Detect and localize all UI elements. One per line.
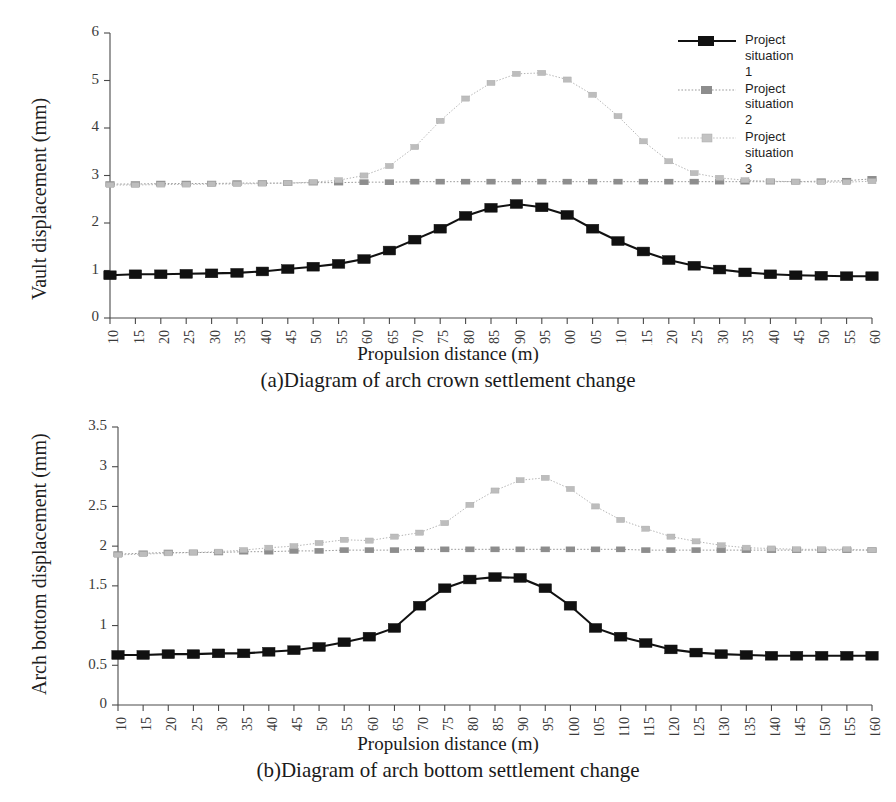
legend-item-1[interactable]: Project situation 1: [676, 32, 831, 80]
x-tick-label: 55: [335, 330, 350, 344]
x-tick-label: 125: [690, 330, 705, 345]
x-tick-label: 65: [391, 717, 406, 731]
x-tick-label: 135: [741, 330, 756, 345]
x-tick-label: 145: [793, 717, 808, 735]
legend-key-dotted-marker-light-icon: [676, 129, 738, 146]
x-tick-label: 135: [743, 717, 758, 735]
x-tick-label: 40: [259, 330, 274, 344]
x-tick-label: 30: [208, 330, 223, 344]
chart-svg-b: 00.511.522.533.5101520253035404550556065…: [0, 405, 896, 735]
x-tick-label: 150: [818, 717, 833, 735]
x-tick-label: 115: [642, 717, 657, 735]
figure-arch-crown: 0123456101520253035404550556065707580859…: [0, 0, 896, 405]
y-tick-label: 2: [100, 537, 108, 553]
y-tick-label: 4: [92, 118, 100, 134]
x-tick-label: 160: [868, 330, 883, 345]
x-tick-label: 115: [640, 330, 655, 345]
y-tick-label: 0.5: [88, 656, 107, 672]
y-tick-label: 1: [100, 616, 108, 632]
x-tick-label: 35: [233, 330, 248, 344]
x-tick-label: 140: [767, 330, 782, 345]
x-tick-label: 105: [592, 717, 607, 735]
x-tick-label: 25: [182, 330, 197, 344]
legend-label-3: Project situation 3: [745, 129, 831, 177]
series-2: [113, 547, 876, 557]
legend-a: Project situation 1 Project situation 2: [676, 32, 831, 178]
x-tick-label: 150: [817, 330, 832, 345]
x-tick-label: 100: [567, 717, 582, 735]
x-tick-label: 75: [436, 330, 451, 344]
x-tick-label: 110: [614, 330, 629, 345]
x-tick-label: 60: [360, 330, 375, 344]
series-3: [114, 475, 876, 557]
x-tick-label: 130: [717, 717, 732, 735]
x-tick-label: 55: [340, 717, 355, 731]
x-tick-label: 35: [240, 717, 255, 731]
x-tick-label: 110: [617, 717, 632, 735]
series-1: [112, 573, 878, 660]
legend-key-dotted-marker-icon: [676, 81, 738, 98]
legend-key-solid-square-icon: [676, 32, 738, 49]
y-tick-label: 3: [100, 457, 108, 473]
x-tick-label: 80: [466, 717, 481, 731]
y-tick-label: 0: [100, 695, 108, 711]
x-tick-label: 50: [309, 330, 324, 344]
y-tick-label: 3.5: [88, 417, 107, 433]
x-tick-label: 60: [366, 717, 381, 731]
plot-area-b: 00.511.522.533.5101520253035404550556065…: [0, 405, 896, 735]
series-1: [104, 200, 878, 281]
y-tick-label: 1.5: [88, 576, 107, 592]
legend-label-1: Project situation 1: [745, 32, 831, 80]
y-tick-label: 3: [92, 166, 100, 182]
x-tick-label: 120: [665, 330, 680, 345]
y-tick-label: 2: [92, 213, 100, 229]
x-tick-label: 70: [411, 330, 426, 344]
x-tick-label: 140: [768, 717, 783, 735]
x-tick-label: 45: [284, 330, 299, 344]
x-tick-label: 85: [487, 330, 502, 344]
figure-caption-a: (a)Diagram of arch crown settlement chan…: [0, 368, 896, 393]
figure-caption-b: (b)Diagram of arch bottom settlement cha…: [0, 758, 896, 783]
x-tick-label: 90: [513, 330, 528, 344]
legend-item-2[interactable]: Project situation 2: [676, 81, 831, 129]
plot-area-a: 0123456101520253035404550556065707580859…: [0, 0, 896, 345]
x-tick-label: 10: [114, 717, 129, 731]
x-tick-label: 120: [667, 717, 682, 735]
x-tick-label: 75: [441, 717, 456, 731]
x-axis-title-a: Propulsion distance (m): [0, 343, 896, 365]
x-tick-label: 65: [386, 330, 401, 344]
x-tick-label: 15: [139, 717, 154, 731]
x-tick-label: 160: [868, 717, 883, 735]
x-tick-label: 20: [164, 717, 179, 731]
x-tick-label: 155: [843, 330, 858, 345]
y-tick-label: 0: [92, 308, 100, 324]
y-axis-title-b: Arch bottom displacement (mm): [28, 433, 51, 695]
x-tick-label: 125: [692, 717, 707, 735]
x-tick-label: 80: [462, 330, 477, 344]
x-tick-label: 90: [516, 717, 531, 731]
x-tick-label: 95: [538, 330, 553, 344]
x-tick-label: 85: [491, 717, 506, 731]
x-tick-label: 25: [190, 717, 205, 731]
y-tick-label: 6: [92, 23, 100, 39]
x-tick-label: 100: [563, 330, 578, 345]
y-tick-label: 2.5: [88, 497, 107, 513]
x-tick-label: 95: [541, 717, 556, 731]
x-tick-label: 130: [716, 330, 731, 345]
legend-item-3[interactable]: Project situation 3: [676, 129, 831, 177]
x-tick-label: 145: [792, 330, 807, 345]
y-axis-title-a: Vault displacement (mm): [28, 98, 51, 300]
x-tick-label: 20: [157, 330, 172, 344]
y-tick-label: 1: [92, 261, 100, 277]
y-tick-label: 5: [92, 71, 100, 87]
legend-label-2: Project situation 2: [745, 81, 831, 129]
x-tick-label: 70: [416, 717, 431, 731]
x-tick-label: 40: [265, 717, 280, 731]
x-tick-label: 45: [290, 717, 305, 731]
x-tick-label: 155: [843, 717, 858, 735]
figure-arch-bottom: 00.511.522.533.5101520253035404550556065…: [0, 405, 896, 802]
x-tick-label: 15: [132, 330, 147, 344]
x-tick-label: 10: [106, 330, 121, 344]
x-tick-label: 30: [215, 717, 230, 731]
x-tick-label: 105: [589, 330, 604, 345]
